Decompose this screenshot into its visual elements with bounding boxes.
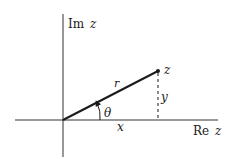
- real-axis-label: Re z: [193, 124, 222, 138]
- x-label: x: [117, 120, 124, 134]
- y-label: y: [160, 90, 168, 104]
- complex-plane-diagram: Im z z r y θ x Re z: [0, 0, 232, 159]
- theta-label: θ: [104, 106, 112, 120]
- angle-arc: [97, 103, 100, 120]
- imaginary-axis-label: Im z: [68, 17, 97, 31]
- radius-label: r: [114, 77, 120, 90]
- point-z-label: z: [163, 63, 171, 77]
- point-z: [156, 69, 160, 73]
